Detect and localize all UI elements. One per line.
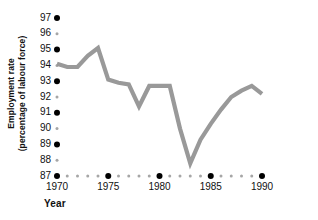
x-tick-dot-minor bbox=[97, 175, 100, 178]
y-tick-dot-major bbox=[54, 173, 60, 179]
chart-plot-area: 8788899091929394959697 19701975198019851… bbox=[0, 0, 318, 220]
x-tick-dot-minor bbox=[220, 175, 223, 178]
x-axis-tick-labels: 19701975198019851990 bbox=[46, 181, 274, 192]
x-tick-label: 1970 bbox=[46, 181, 69, 192]
y-tick-dot-major bbox=[54, 141, 60, 147]
x-axis-tick-dots bbox=[66, 173, 265, 179]
y-tick-label: 87 bbox=[40, 170, 52, 181]
x-tick-dot-minor bbox=[240, 175, 243, 178]
y-tick-label: 91 bbox=[40, 106, 52, 117]
x-tick-dot-minor bbox=[86, 175, 89, 178]
x-tick-dot-minor bbox=[250, 175, 253, 178]
x-tick-dot-minor bbox=[148, 175, 151, 178]
x-axis-title: Year bbox=[44, 198, 66, 209]
y-axis-tick-dots bbox=[54, 15, 60, 179]
y-tick-label: 93 bbox=[40, 75, 52, 86]
y-tick-dot-major bbox=[54, 47, 60, 53]
y-tick-dot-minor bbox=[56, 127, 59, 130]
x-tick-dot-minor bbox=[66, 175, 69, 178]
y-tick-dot-major bbox=[54, 78, 60, 84]
x-tick-dot-major bbox=[208, 173, 214, 179]
y-tick-label: 89 bbox=[40, 138, 52, 149]
y-tick-label: 96 bbox=[40, 27, 52, 38]
y-tick-label: 97 bbox=[40, 12, 52, 23]
x-tick-dot-minor bbox=[138, 175, 141, 178]
y-tick-dot-minor bbox=[56, 32, 59, 35]
x-tick-dot-minor bbox=[189, 175, 192, 178]
y-tick-dot-minor bbox=[56, 159, 59, 162]
y-tick-label: 92 bbox=[40, 91, 52, 102]
employment-rate-chart: Employment rate (percentage of labour fo… bbox=[0, 0, 318, 220]
x-tick-label: 1990 bbox=[251, 181, 274, 192]
y-tick-dot-major bbox=[54, 110, 60, 116]
y-tick-label: 94 bbox=[40, 59, 52, 70]
y-tick-dot-major bbox=[54, 15, 60, 21]
y-tick-label: 95 bbox=[40, 43, 52, 54]
employment-rate-line bbox=[57, 48, 262, 163]
y-tick-dot-minor bbox=[56, 96, 59, 99]
x-tick-dot-minor bbox=[117, 175, 120, 178]
x-tick-dot-major bbox=[259, 173, 265, 179]
x-tick-dot-major bbox=[157, 173, 163, 179]
x-tick-dot-minor bbox=[127, 175, 130, 178]
x-tick-dot-major bbox=[105, 173, 111, 179]
y-tick-label: 90 bbox=[40, 122, 52, 133]
x-tick-label: 1980 bbox=[148, 181, 171, 192]
y-tick-label: 88 bbox=[40, 154, 52, 165]
y-axis-tick-labels: 8788899091929394959697 bbox=[40, 12, 52, 181]
x-tick-label: 1975 bbox=[97, 181, 120, 192]
x-tick-dot-minor bbox=[199, 175, 202, 178]
x-tick-label: 1985 bbox=[200, 181, 223, 192]
x-tick-dot-minor bbox=[179, 175, 182, 178]
x-tick-dot-minor bbox=[76, 175, 79, 178]
x-tick-dot-minor bbox=[230, 175, 233, 178]
x-tick-dot-minor bbox=[168, 175, 171, 178]
